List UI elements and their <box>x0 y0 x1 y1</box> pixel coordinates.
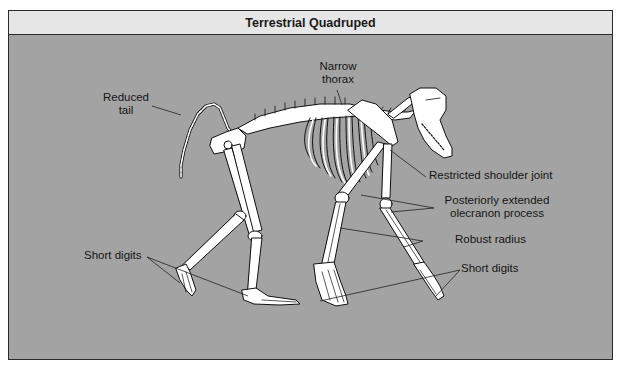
label-reduced-tail: Reduced tail <box>100 91 152 117</box>
hind-tibia-back <box>182 214 244 270</box>
label-short-digits-right: Short digits <box>461 262 519 275</box>
label-narrow-thorax: Narrow thorax <box>312 60 364 86</box>
front-hand-front <box>414 262 444 300</box>
label-robust-radius: Robust radius <box>455 233 526 246</box>
front-humerus-back <box>338 142 386 198</box>
hind-tibia-front <box>248 238 262 290</box>
label-restricted-shoulder-joint: Restricted shoulder joint <box>429 169 552 182</box>
label-short-digits-left: Short digits <box>84 249 142 262</box>
front-humerus-front <box>382 144 392 198</box>
label-olecranon-process: Posteriorly extended olecranon process <box>437 194 557 220</box>
skull <box>410 88 452 158</box>
front-radius-front <box>380 208 424 266</box>
skeleton-illustration <box>0 0 622 371</box>
scapula <box>348 100 398 146</box>
hind-foot-front <box>242 288 300 305</box>
